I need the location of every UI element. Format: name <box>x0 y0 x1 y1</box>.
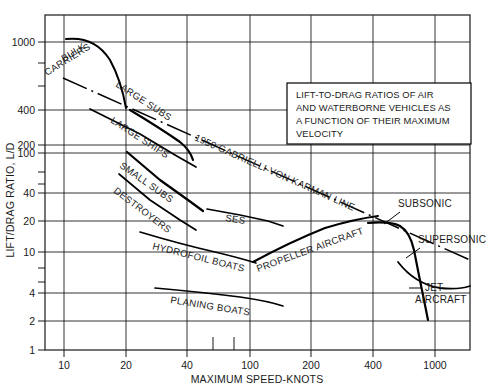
ytick-label-1: 1 <box>29 344 35 356</box>
annotation-line-2: AND WATERBORNE VEHICLES AS <box>296 102 451 113</box>
x-axis-title: MAXIMUM SPEED-KNOTS <box>191 373 324 385</box>
ytick-label-40: 40 <box>23 187 35 199</box>
label-jet-aircraft-line1: JET <box>425 282 443 293</box>
annotation-line-3: A FUNCTION OF THEIR MAXIMUM <box>296 115 450 126</box>
xtick-label-40: 40 <box>181 359 193 371</box>
ytick-label-400: 400 <box>17 104 35 116</box>
ytick-label-100: 100 <box>17 147 35 159</box>
xtick-label-400: 400 <box>364 359 382 371</box>
annotation-line-4: VELOCITY <box>296 128 344 139</box>
label-subsonic: SUBSONIC <box>398 198 452 209</box>
chart-figure: 1000 400 200 100 40 20 10 4 2 1 10 20 40… <box>0 0 488 389</box>
ytick-label-20: 20 <box>23 215 35 227</box>
ytick-label-2: 2 <box>29 315 35 327</box>
y-axis-title: LIFT/DRAG RATIO, L/D <box>4 142 16 257</box>
xtick-label-10: 10 <box>58 359 70 371</box>
label-jet-aircraft-line2: AIRCRAFT <box>415 294 467 305</box>
annotation-box: LIFT-TO-DRAG RATIOS OF AIR AND WATERBORN… <box>287 83 471 144</box>
ytick-label-10: 10 <box>23 246 35 258</box>
xtick-label-200: 200 <box>302 359 320 371</box>
annotation-line-1: LIFT-TO-DRAG RATIOS OF AIR <box>296 89 434 100</box>
ytick-label-1000: 1000 <box>12 36 36 48</box>
ytick-label-4: 4 <box>29 287 35 299</box>
xtick-label-20: 20 <box>120 359 132 371</box>
xtick-label-1000: 1000 <box>423 359 447 371</box>
xtick-label-100: 100 <box>241 359 259 371</box>
label-supersonic: SUPERSONIC <box>418 234 486 245</box>
